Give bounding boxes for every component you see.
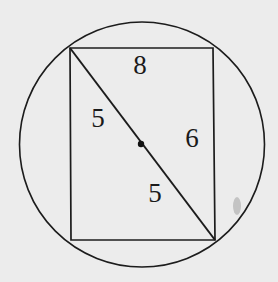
label-diagonal-upper: 5 — [91, 103, 105, 133]
label-diagonal-lower: 5 — [148, 178, 162, 208]
scan-smudge — [233, 197, 241, 215]
center-point — [138, 141, 144, 147]
label-right-side: 6 — [185, 123, 199, 153]
diagram-canvas: 8 5 6 5 — [0, 0, 278, 282]
label-top-side: 8 — [133, 50, 147, 80]
geometry-figure: 8 5 6 5 — [0, 0, 278, 282]
